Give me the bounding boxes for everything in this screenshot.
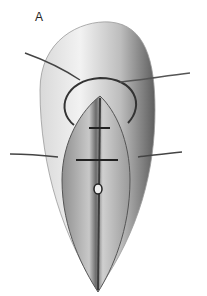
- orifice: [94, 184, 102, 194]
- surgical-illustration: [0, 0, 207, 296]
